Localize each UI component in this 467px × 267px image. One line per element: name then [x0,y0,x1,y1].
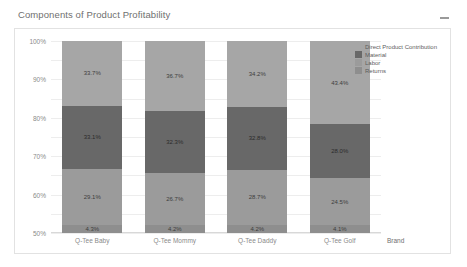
legend-item[interactable]: Direct Product Contribution [355,43,437,50]
bar-segment-label: 4.2% [168,226,182,232]
bar-segment-label: 32.3% [166,139,183,145]
plot-canvas: 100%90%80%70%60%50%40%30%20%10%0% 33.7%3… [51,41,381,233]
y-axis-tick-label: 70% [33,153,46,160]
bar-segment-label: 33.1% [84,134,101,140]
card-title: Components of Product Profitability [18,9,170,20]
x-axis-tick-labels: Q-Tee BabyQ-Tee MommyQ-Tee DaddyQ-Tee Go… [51,237,381,249]
stacked-bar[interactable]: 34.2%32.8%28.7%4.2% [227,41,287,233]
legend-swatch-icon [355,67,362,74]
bar-segment-label: 36.7% [166,73,183,79]
bar-segment-label: 33.7% [84,70,101,76]
x-axis-tick-label: Q-Tee Golf [310,237,370,249]
bar-segment[interactable]: 32.8% [227,107,287,170]
legend-label: Labor [365,60,380,66]
bar-segment[interactable]: 28.0% [310,124,370,178]
x-axis-title: Brand [387,237,404,244]
bar-segment[interactable]: 28.7% [227,170,287,225]
legend-item[interactable]: Material [355,51,437,58]
stacked-bar[interactable]: 36.7%32.3%26.7%4.2% [145,41,205,233]
legend-label: Direct Product Contribution [365,44,437,50]
bar-group: 33.7%33.1%29.1%4.3%36.7%32.3%26.7%4.2%34… [51,41,381,233]
legend-swatch-icon [355,51,362,58]
bar-segment[interactable]: 24.5% [310,178,370,225]
legend-label: Material [365,52,386,58]
stacked-bar[interactable]: 33.7%33.1%29.1%4.3% [62,41,122,233]
legend-swatch-icon [355,43,362,50]
bar-segment-label: 28.0% [331,148,348,154]
y-axis-tick-label: 100% [29,38,46,45]
legend-item[interactable]: Returns [355,67,437,74]
legend-swatch-icon [355,59,362,66]
bar-segment-label: 29.1% [84,194,101,200]
y-axis-tick-label: 80% [33,114,46,121]
card-header: Components of Product Profitability [14,6,453,28]
bar-segment[interactable]: 33.7% [62,41,122,106]
legend-item[interactable]: Labor [355,59,437,66]
minimize-icon[interactable] [440,14,449,21]
bar-segment[interactable]: 32.3% [145,111,205,173]
chart-legend: Direct Product ContributionMaterialLabor… [355,43,437,74]
bar-segment[interactable]: 4.3% [62,225,122,233]
bar-segment[interactable]: 26.7% [145,173,205,224]
y-axis-tick-label: 90% [33,76,46,83]
bar-segment[interactable]: 34.2% [227,41,287,107]
bar-segment-label: 4.1% [333,226,347,232]
bar-segment-label: 43.4% [331,80,348,86]
chart-card: Components of Product Profitability 100%… [14,6,453,256]
y-axis-tick-label: 50% [33,230,46,237]
bar-segment[interactable]: 4.1% [310,225,370,233]
x-axis-tick-label: Q-Tee Daddy [227,237,287,249]
bar-segment[interactable]: 4.2% [145,225,205,233]
bar-segment[interactable]: 4.2% [227,225,287,233]
x-axis-tick-label: Q-Tee Baby [62,237,122,249]
bar-segment-label: 24.5% [331,199,348,205]
bar-segment-label: 4.2% [250,226,264,232]
y-axis-tick-label: 60% [33,191,46,198]
bar-segment-label: 34.2% [249,71,266,77]
bar-segment-label: 4.3% [85,226,99,232]
gridline: 0% [51,233,381,234]
bar-segment-label: 26.7% [166,196,183,202]
bar-segment[interactable]: 33.1% [62,106,122,169]
bar-segment-label: 32.8% [249,135,266,141]
x-axis-tick-label: Q-Tee Mommy [145,237,205,249]
bar-segment-label: 28.7% [249,194,266,200]
legend-label: Returns [365,68,386,74]
bar-segment[interactable]: 29.1% [62,169,122,225]
bar-segment[interactable]: 36.7% [145,41,205,111]
chart-plot-area: 100%90%80%70%60%50%40%30%20%10%0% 33.7%3… [14,28,451,254]
